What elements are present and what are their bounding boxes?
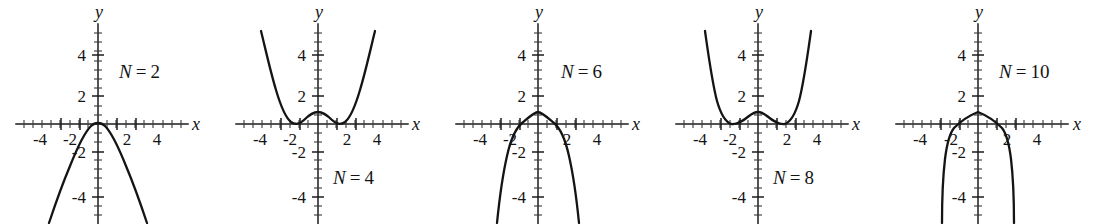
plot-panel-n6: -4 -2 2 4 4 2 -2 -4 x y N=6 <box>440 0 660 224</box>
y-tick-label-neg4: -4 <box>732 188 747 207</box>
y-tick-label-neg4: -4 <box>72 188 87 207</box>
plot-panel-n10: -4 -2 2 4 4 2 -2 -4 x y N=10 <box>880 0 1100 224</box>
x-tick-label-neg4: -4 <box>693 130 708 149</box>
x-tick-label-pos4: 4 <box>1033 130 1042 149</box>
x-tick-label-neg4: -4 <box>913 130 928 149</box>
plot-panel-n4: -4 -2 2 4 4 2 -2 -4 x y N=4 <box>220 0 440 224</box>
y-tick-label-neg2: -2 <box>952 143 966 162</box>
x-tick-label-pos2: 2 <box>123 130 132 149</box>
plot-panel-n8: -4 -2 2 4 4 2 -2 -4 x y N=8 <box>660 0 880 224</box>
x-tick-label-pos2: 2 <box>1003 130 1012 149</box>
y-tick-label-pos2: 2 <box>78 87 87 106</box>
y-tick-label-neg2: -2 <box>732 143 746 162</box>
x-tick-label-pos4: 4 <box>593 130 602 149</box>
x-tick-label-neg4: -4 <box>473 130 488 149</box>
y-tick-label-neg4: -4 <box>512 188 527 207</box>
y-tick-label-pos4: 4 <box>518 46 527 65</box>
x-tick-label-pos4: 4 <box>153 130 162 149</box>
x-tick-label-pos4: 4 <box>813 130 822 149</box>
y-axis-label: y <box>973 2 983 22</box>
y-tick-label-neg2: -2 <box>292 143 306 162</box>
y-tick-label-pos2: 2 <box>518 87 527 106</box>
y-axis-label: y <box>533 2 543 22</box>
y-tick-label-neg2: -2 <box>72 143 86 162</box>
y-tick-label-pos4: 4 <box>78 46 87 65</box>
y-tick-label-pos2: 2 <box>298 87 307 106</box>
plot-panel-n2: -4 -2 2 4 4 2 -2 -4 x y N=2 <box>0 0 220 224</box>
y-tick-label-pos4: 4 <box>738 46 747 65</box>
x-tick-label-neg4: -4 <box>33 130 48 149</box>
taylor-polynomial-figure: -4 -2 2 4 4 2 -2 -4 x y N=2 <box>0 0 1104 224</box>
y-axis-label: y <box>93 2 103 22</box>
panel-n-label: N=8 <box>772 167 814 188</box>
y-tick-label-pos2: 2 <box>738 87 747 106</box>
y-axis-label: y <box>313 2 323 22</box>
x-axis-label: x <box>631 114 640 134</box>
plot-svg-n2: -4 -2 2 4 4 2 -2 -4 x y N=2 <box>0 0 220 224</box>
x-axis-label: x <box>1072 114 1081 134</box>
panel-n-label: N=4 <box>332 167 374 188</box>
plot-svg-n6: -4 -2 2 4 4 2 -2 -4 x y N=6 <box>440 0 660 224</box>
x-tick-label-pos2: 2 <box>563 130 572 149</box>
y-tick-label-pos4: 4 <box>298 46 307 65</box>
plot-svg-n8: -4 -2 2 4 4 2 -2 -4 x y N=8 <box>660 0 880 224</box>
panel-n-label: N=2 <box>118 61 160 82</box>
panel-n-label: N=6 <box>560 61 602 82</box>
x-tick-label-neg4: -4 <box>253 130 268 149</box>
y-tick-label-pos4: 4 <box>958 46 967 65</box>
y-tick-label-neg2: -2 <box>512 143 526 162</box>
y-axis-label: y <box>753 2 763 22</box>
panel-n-label: N=10 <box>998 61 1049 82</box>
plot-svg-n10: -4 -2 2 4 4 2 -2 -4 x y N=10 <box>880 0 1104 224</box>
x-axis-label: x <box>411 114 420 134</box>
y-tick-label-neg4: -4 <box>292 188 307 207</box>
plot-svg-n4: -4 -2 2 4 4 2 -2 -4 x y N=4 <box>220 0 440 224</box>
x-tick-label-pos4: 4 <box>373 130 382 149</box>
x-axis-label: x <box>191 114 200 134</box>
x-tick-label-pos2: 2 <box>783 130 792 149</box>
y-tick-label-neg4: -4 <box>952 188 967 207</box>
x-tick-label-pos2: 2 <box>343 130 352 149</box>
y-tick-label-pos2: 2 <box>958 87 967 106</box>
x-axis-label: x <box>851 114 860 134</box>
